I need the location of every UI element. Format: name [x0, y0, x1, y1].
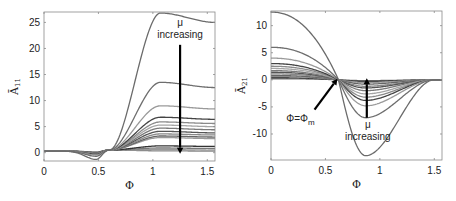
annotation-text: Φ=Φm	[286, 113, 315, 127]
x-tick-label: 0.5	[91, 166, 105, 177]
annotation-text: μ	[365, 119, 371, 130]
annotation-text: increasing	[157, 29, 203, 40]
y-tick-label: 0	[34, 147, 40, 158]
x-tick-label: 1.5	[200, 166, 214, 177]
annotation-text: μ	[177, 17, 183, 28]
x-tick-label: 1.5	[427, 165, 441, 176]
figure: 00.511.50510152025ΦĀ11μincreasing 00.511…	[0, 0, 456, 201]
y-tick-label: 0	[261, 74, 267, 85]
y-tick-label: -10	[253, 128, 268, 139]
x-axis-label: Φ	[352, 178, 361, 191]
y-axis-label: Ā11	[8, 78, 22, 96]
y-tick-label: 10	[29, 95, 41, 106]
x-tick-label: 1	[377, 165, 383, 176]
y-tick-label: 25	[29, 17, 41, 28]
annotation-arrow	[315, 84, 334, 110]
y-tick-label: 15	[29, 69, 41, 80]
x-tick-label: 0	[268, 165, 274, 176]
y-tick-label: 5	[34, 121, 40, 132]
y-tick-label: 20	[29, 43, 41, 54]
plot-a21: 00.511.5-10-50510ΦĀ21Φ=Φmμincreasing	[235, 11, 442, 191]
y-tick-label: -5	[258, 101, 267, 112]
x-tick-label: 1	[150, 166, 156, 177]
y-tick-label: 10	[256, 20, 268, 31]
x-axis-label: Φ	[125, 179, 134, 192]
y-axis-label: Ā21	[235, 77, 249, 95]
x-tick-label: 0	[41, 166, 47, 177]
y-tick-label: 5	[261, 47, 267, 58]
plot-a11: 00.511.50510152025ΦĀ11μincreasing	[8, 12, 215, 192]
annotation-text: increasing	[345, 131, 391, 142]
x-tick-label: 0.5	[318, 165, 332, 176]
